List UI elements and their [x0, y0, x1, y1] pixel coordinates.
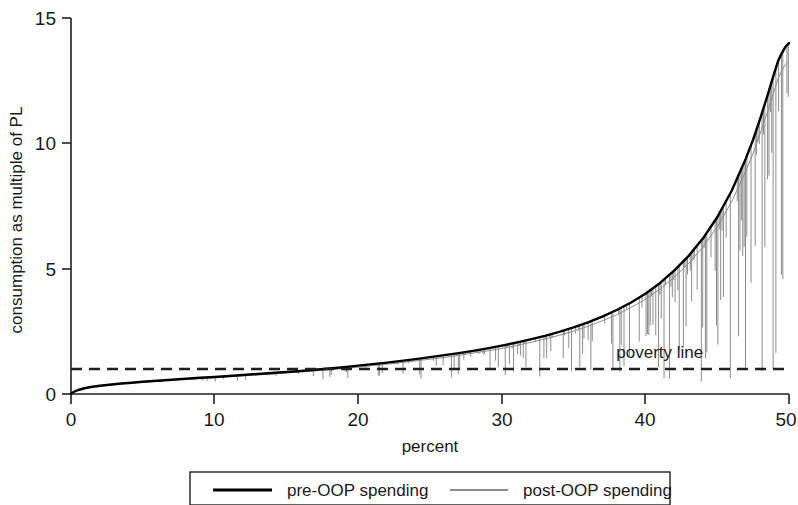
y-axis-title-text: consumption as multiple of PL: [7, 107, 26, 334]
x-tick-label-30: 30: [491, 409, 512, 430]
x-tick-label-0: 0: [66, 409, 77, 430]
y-tick-label-10: 10: [35, 133, 56, 154]
poverty-line-group: poverty line: [71, 343, 789, 369]
chart-canvas: consumption as multiple of PL 15 10 5 0 …: [0, 0, 798, 505]
series-post-oop-spending: [71, 44, 789, 394]
plot-area: [71, 43, 789, 394]
x-axis: 0 10 20 30 40 50 percent: [66, 394, 797, 456]
y-axis-title: consumption as multiple of PL: [7, 107, 26, 334]
y-tick-label-0: 0: [45, 384, 56, 405]
poverty-line-label: poverty line: [616, 343, 703, 362]
x-tick-label-50: 50: [775, 409, 796, 430]
x-tick-label-40: 40: [634, 409, 655, 430]
chart-legend: pre-OOP spending post-OOP spending: [190, 472, 672, 505]
x-tick-label-10: 10: [203, 409, 224, 430]
y-tick-label-5: 5: [45, 259, 56, 280]
chart-figure: consumption as multiple of PL 15 10 5 0 …: [0, 0, 798, 505]
y-tick-label-15: 15: [35, 8, 56, 29]
legend-label-post-oop-spending: post-OOP spending: [523, 481, 672, 500]
x-axis-title-text: percent: [402, 437, 459, 456]
x-tick-label-20: 20: [347, 409, 368, 430]
legend-label-pre-oop-spending: pre-OOP spending: [287, 481, 428, 500]
y-axis: 15 10 5 0: [35, 8, 71, 405]
series-pre-oop-spending: [71, 43, 789, 393]
